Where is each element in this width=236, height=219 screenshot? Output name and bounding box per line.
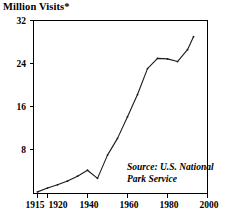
y-axis-label-16: 16 bbox=[17, 102, 27, 112]
data-point bbox=[187, 49, 189, 51]
data-point bbox=[193, 36, 195, 38]
x-axis-label-1940: 1940 bbox=[80, 200, 99, 210]
chart-plot-area: 32 24 16 8 1915 1920 1940 1960 1980 2000 bbox=[0, 0, 236, 219]
data-point bbox=[47, 187, 49, 189]
data-point bbox=[127, 116, 129, 118]
data-point bbox=[137, 94, 139, 96]
source-annotation: Source: U.S. National Park Service bbox=[127, 162, 214, 184]
data-point bbox=[37, 191, 39, 193]
data-point bbox=[177, 61, 179, 63]
data-point bbox=[117, 137, 119, 139]
data-point bbox=[97, 177, 99, 179]
x-axis-label-1920: 1920 bbox=[49, 200, 68, 210]
x-axis-label-1960: 1960 bbox=[120, 200, 139, 210]
x-axis-label-2000: 2000 bbox=[200, 200, 219, 210]
x-axis-label-1980: 1980 bbox=[160, 200, 179, 210]
national-park-visits-chart: Million Visits* 32 24 16 8 bbox=[0, 0, 236, 219]
data-point bbox=[147, 68, 149, 70]
y-axis-labels: 32 24 16 8 bbox=[17, 16, 27, 155]
data-point bbox=[77, 175, 79, 177]
x-axis-labels: 1915 1920 1940 1960 1980 2000 bbox=[26, 200, 219, 210]
y-axis-label-8: 8 bbox=[21, 145, 26, 155]
source-annotation-line2: Park Service bbox=[127, 174, 178, 184]
data-point bbox=[87, 169, 89, 171]
y-axis-ticks bbox=[30, 21, 34, 150]
x-axis-label-1915: 1915 bbox=[26, 200, 45, 210]
source-annotation-line1: Source: U.S. National bbox=[127, 162, 214, 172]
data-point bbox=[57, 184, 59, 186]
y-axis-label-32: 32 bbox=[17, 16, 27, 26]
data-point bbox=[67, 180, 69, 182]
x-axis-ticks bbox=[38, 194, 208, 198]
y-axis-label-24: 24 bbox=[17, 59, 27, 69]
data-point bbox=[107, 154, 109, 156]
data-point bbox=[157, 57, 159, 59]
data-point bbox=[167, 58, 169, 60]
